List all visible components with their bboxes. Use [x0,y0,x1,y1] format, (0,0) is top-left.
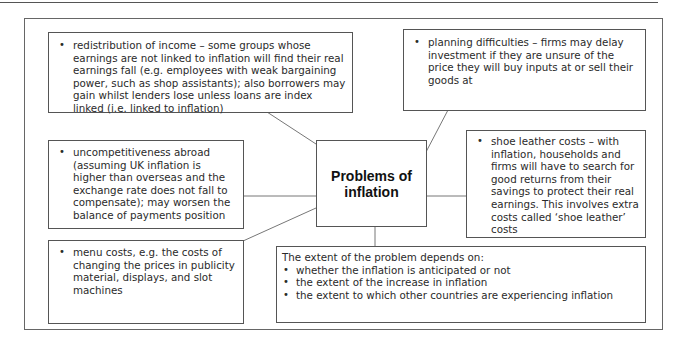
connector-planning [426,110,448,152]
node-text: menu costs, e.g. the costs of changing t… [53,246,237,296]
node-text: redistribution of income – some groups w… [53,39,346,115]
connector-redistribution [267,112,316,144]
extent-item: the extent to which other countries are … [280,289,639,302]
node-text: uncompetitiveness abroad (assuming UK in… [53,146,237,222]
central-topic-line-1: Problems of [331,168,412,184]
connector-menu-costs [243,208,316,241]
node-menu-costs: menu costs, e.g. the costs of changing t… [48,240,244,324]
node-uncompetitiveness: uncompetitiveness abroad (assuming UK in… [48,140,244,229]
node-shoe-leather: shoe leather costs – with inflation, hou… [466,130,646,238]
central-topic: Problems of inflation [316,140,427,227]
extent-lead: The extent of the problem depends on: [280,251,639,264]
node-text: planning difficulties – firms may delay … [408,36,639,86]
node-redistribution: redistribution of income – some groups w… [48,32,353,113]
node-planning: planning difficulties – firms may delay … [403,29,646,111]
extent-item: the extent of the increase in inflation [280,276,639,289]
extent-item: whether the inflation is anticipated or … [280,264,639,277]
extent-box: The extent of the problem depends on: wh… [276,246,646,323]
node-text: shoe leather costs – with inflation, hou… [471,135,639,236]
central-topic-line-2: inflation [331,184,412,200]
